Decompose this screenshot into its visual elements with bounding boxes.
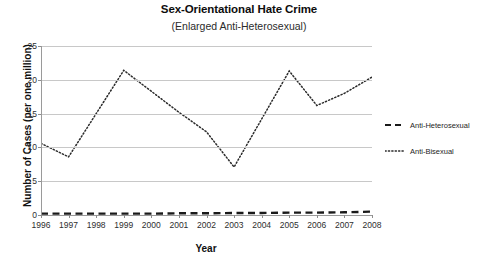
y-tick-label: 5 <box>15 176 37 186</box>
y-axis-line <box>41 46 42 215</box>
x-tick-label: 2006 <box>302 220 332 230</box>
chart-title: Sex-Orientational Hate Crime <box>0 3 478 15</box>
gridline <box>41 114 372 115</box>
gridline <box>41 80 372 81</box>
x-tick-mark <box>179 215 180 218</box>
x-tick-mark <box>96 215 97 218</box>
series-plot <box>41 46 372 215</box>
legend-item-anti-bisexual: Anti-Bisexual <box>385 144 454 158</box>
legend-swatch-dashed-icon <box>385 120 405 130</box>
x-tick-label: 2005 <box>274 220 304 230</box>
gridline <box>41 46 372 47</box>
x-axis-title: Year <box>40 243 372 254</box>
gridline <box>41 147 372 148</box>
y-tick-label: 10 <box>15 142 37 152</box>
chart-container: Sex-Orientational Hate Crime (Enlarged A… <box>0 0 478 262</box>
x-tick-label: 1999 <box>109 220 139 230</box>
x-tick-label: 2004 <box>247 220 277 230</box>
x-tick-label: 1997 <box>54 220 84 230</box>
y-tick-label: 20 <box>15 75 37 85</box>
legend-item-anti-heterosexual: Anti-Heterosexual <box>385 118 470 132</box>
y-tick-label: 15 <box>15 109 37 119</box>
x-tick-mark <box>262 215 263 218</box>
chart-subtitle: (Enlarged Anti-Heterosexual) <box>0 20 478 32</box>
legend-swatch-dotted-icon <box>385 146 405 156</box>
x-tick-mark <box>207 215 208 218</box>
x-tick-mark <box>69 215 70 218</box>
x-tick-label: 2003 <box>219 220 249 230</box>
series-line <box>41 70 372 167</box>
y-tick-label: 0 <box>15 210 37 220</box>
x-tick-label: 1996 <box>26 220 56 230</box>
x-tick-label: 1998 <box>81 220 111 230</box>
x-tick-mark <box>41 215 42 218</box>
y-tick-label: 25 <box>15 41 37 51</box>
gridline <box>41 181 372 182</box>
x-tick-mark <box>151 215 152 218</box>
x-tick-label: 2007 <box>329 220 359 230</box>
x-tick-mark <box>344 215 345 218</box>
x-tick-label: 2000 <box>136 220 166 230</box>
x-tick-label: 2008 <box>357 220 387 230</box>
legend-label: Anti-Bisexual <box>410 147 454 156</box>
x-tick-label: 2002 <box>192 220 222 230</box>
y-axis-title: Number of Cases (per one million) <box>22 36 33 216</box>
legend-label: Anti-Heterosexual <box>410 121 470 130</box>
x-tick-mark <box>234 215 235 218</box>
x-tick-label: 2001 <box>164 220 194 230</box>
x-tick-mark <box>372 215 373 218</box>
plot-area <box>41 46 372 215</box>
x-tick-mark <box>317 215 318 218</box>
series-line <box>41 212 372 214</box>
x-tick-mark <box>289 215 290 218</box>
x-tick-mark <box>124 215 125 218</box>
